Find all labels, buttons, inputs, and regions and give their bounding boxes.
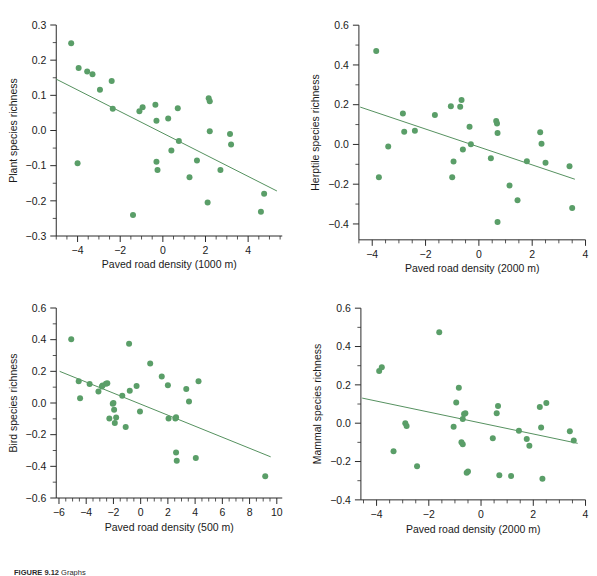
regression-line [56, 79, 277, 191]
data-point [76, 65, 82, 71]
y-tick-label: 0.4 [32, 333, 47, 345]
data-point [196, 378, 202, 384]
data-point [147, 360, 153, 366]
data-point [155, 167, 161, 173]
x-tick-label: 6 [219, 506, 225, 518]
data-point [447, 103, 453, 109]
data-point [457, 104, 463, 110]
data-point [403, 423, 409, 429]
x-tick-label: −4 [370, 509, 382, 520]
y-axis-title: Bird species richness [7, 353, 19, 452]
data-point [152, 102, 158, 108]
data-point [77, 395, 83, 401]
data-point [462, 410, 468, 416]
data-point [515, 428, 521, 434]
data-point [112, 420, 118, 426]
y-tick-label: 0.4 [336, 341, 351, 352]
data-point [494, 219, 500, 225]
data-point [106, 416, 112, 422]
y-tick-label: −0.3 [26, 230, 47, 242]
data-point [401, 129, 407, 135]
data-point [506, 182, 512, 188]
data-point [110, 106, 116, 112]
data-point [207, 128, 213, 134]
data-point [113, 415, 119, 421]
y-tick-label: 0.0 [32, 124, 47, 136]
data-point [95, 388, 101, 394]
data-point [566, 163, 572, 169]
data-point [165, 116, 171, 122]
data-point [536, 404, 542, 410]
data-point [68, 336, 74, 342]
data-point [89, 71, 95, 77]
y-tick-label: 0.2 [336, 380, 351, 391]
data-point [458, 97, 464, 103]
data-point [207, 98, 213, 104]
figure-caption-text: Graphs [61, 568, 86, 576]
data-point [111, 407, 117, 413]
data-point [466, 124, 472, 130]
y-tick-label: 0.3 [32, 19, 47, 31]
data-point [514, 197, 520, 203]
data-point [495, 403, 501, 409]
data-point [411, 128, 417, 134]
data-point [166, 416, 172, 422]
x-axis-title: Paved road density (1000 m) [102, 258, 237, 270]
data-point [258, 209, 264, 215]
data-point [153, 159, 159, 165]
y-tick-label: 0.2 [32, 54, 47, 66]
data-point [217, 167, 223, 173]
y-tick-label: −0.2 [26, 428, 47, 440]
y-tick-label: 0.6 [336, 303, 351, 314]
x-tick-label: 0 [475, 249, 481, 260]
y-tick-label: −0.2 [330, 456, 351, 467]
figure-panel-grid: −4−2024−0.3−0.2−0.10.00.10.20.3Paved roa… [0, 0, 597, 576]
x-tick-label: 2 [530, 509, 536, 520]
data-point [526, 443, 532, 449]
data-point [496, 472, 502, 478]
data-point [487, 155, 493, 161]
y-tick-label: 0.1 [32, 89, 47, 101]
x-tick-label: 0 [160, 244, 166, 256]
x-tick-label: −2 [419, 249, 431, 260]
data-point [187, 174, 193, 180]
y-tick-label: 0.6 [32, 302, 47, 314]
y-tick-label: −0.4 [328, 219, 349, 230]
y-tick-label: −0.4 [26, 460, 47, 472]
y-tick-label: 0.0 [334, 139, 349, 150]
data-point [378, 364, 384, 370]
data-point [431, 112, 437, 118]
data-point [494, 130, 500, 136]
panel-plant: −4−2024−0.3−0.2−0.10.00.10.20.3Paved roa… [0, 0, 299, 288]
x-tick-label: 2 [165, 506, 171, 518]
data-point [489, 435, 495, 441]
y-tick-label: 0.2 [334, 99, 349, 110]
data-point [453, 399, 459, 405]
data-point [455, 385, 461, 391]
data-point [537, 129, 543, 135]
y-tick-label: 0.4 [334, 60, 349, 71]
figure-caption-label: FIGURE 9.12 [14, 568, 59, 576]
data-point [205, 200, 211, 206]
figure-caption: FIGURE 9.12 Graphs [14, 568, 574, 576]
x-axis-title: Paved road density (2000 m) [405, 524, 539, 535]
data-point [183, 386, 189, 392]
x-tick-label: 10 [271, 506, 283, 518]
data-point [159, 374, 165, 380]
data-point [130, 212, 136, 218]
data-point [385, 143, 391, 149]
herptile-scatter-chart: −4−2024−0.4−0.20.00.20.40.6Paved road de… [299, 0, 597, 288]
x-axis-title: Paved road density (500 m) [105, 521, 234, 533]
x-tick-label: 0 [138, 506, 144, 518]
data-point [126, 341, 132, 347]
x-tick-label: −4 [366, 249, 378, 260]
data-point [228, 142, 234, 148]
data-point [375, 174, 381, 180]
x-tick-label: −4 [80, 506, 92, 518]
data-point [168, 148, 174, 154]
data-point [104, 380, 110, 386]
data-point [494, 121, 500, 127]
data-point [227, 131, 233, 137]
data-point [569, 205, 575, 211]
data-point [523, 436, 529, 442]
